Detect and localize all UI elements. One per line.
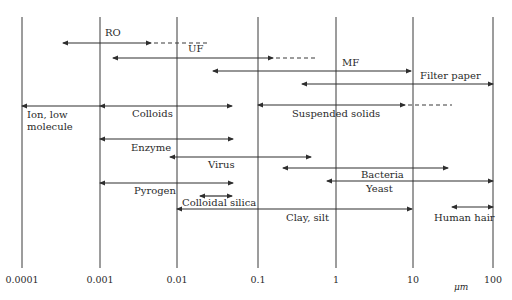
range-label: Clay, silt [286, 212, 329, 223]
process-filter-paper: Filter paper [302, 70, 493, 84]
range-label: Enzyme [131, 142, 171, 153]
particle-colloidal-silica: Colloidal silica [182, 196, 256, 208]
range-label: Yeast [365, 183, 393, 194]
particle-pyrogen: Pyrogen [100, 183, 233, 196]
particle-enzyme: Enzyme [100, 139, 233, 153]
particle-human-hair: Human hair [434, 207, 495, 223]
range-label-line2: molecule [27, 121, 73, 132]
tick-label: 0.1 [250, 274, 265, 285]
tick-label: 10 [407, 274, 419, 285]
range-label: Colloidal silica [182, 197, 256, 208]
range-label: RO [105, 27, 121, 38]
particle-bacteria: Bacteria [283, 168, 448, 180]
range-label: MF [342, 57, 359, 68]
particle-yeast: Yeast [327, 181, 493, 194]
range-label: Bacteria [361, 169, 404, 180]
tick-label: 1 [333, 274, 339, 285]
particle-ion-low: Ion, lowmolecule [22, 106, 100, 132]
range-label: Virus [207, 159, 235, 170]
unit-label: μm [454, 282, 468, 292]
tick-label: 100 [484, 274, 502, 285]
axis-tick-labels: 0.00010.0010.010.1110100 [5, 274, 502, 285]
process-mf: MF [213, 57, 411, 71]
range-label: Filter paper [420, 70, 481, 81]
particle-suspended-solids: Suspended solids [258, 105, 452, 119]
process-uf: UF [113, 43, 316, 58]
separation-process-ranges: ROUFMFFilter paper [63, 27, 493, 84]
particle-clay-silt: Clay, silt [177, 209, 412, 223]
tick-label: 0.001 [86, 274, 113, 285]
range-label: Human hair [434, 212, 495, 223]
range-label: Colloids [132, 108, 173, 119]
tick-label: 0.01 [166, 274, 187, 285]
range-label: Ion, low [27, 109, 68, 120]
gridlines [22, 17, 493, 268]
range-label: Pyrogen [134, 185, 176, 196]
filtration-range-diagram: 0.00010.0010.010.1110100 ROUFMFFilter pa… [0, 0, 512, 300]
range-label: UF [188, 43, 203, 54]
particle-colloids: Colloids [100, 106, 232, 119]
process-ro: RO [63, 27, 208, 43]
range-label: Suspended solids [292, 108, 380, 119]
tick-label: 0.0001 [5, 274, 38, 285]
